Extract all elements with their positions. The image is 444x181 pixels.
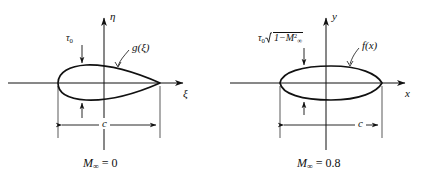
caption-mach-subscript: ∞ bbox=[307, 162, 313, 171]
curve-label-f: f(x) bbox=[362, 40, 377, 51]
radicand: 1−M2∞ bbox=[273, 32, 303, 44]
caption-mach-subscript: ∞ bbox=[93, 162, 99, 171]
chord-label: c bbox=[355, 118, 366, 129]
caption-mach-value: = 0.8 bbox=[316, 156, 341, 170]
curve-label-g: g(ξ) bbox=[132, 42, 150, 53]
panel-incompressible-drawing bbox=[0, 0, 222, 181]
xi-axis-label: ξ bbox=[183, 88, 188, 99]
panel-compressible-drawing bbox=[222, 0, 444, 181]
f-label-leader-line bbox=[350, 48, 359, 64]
y-axis-label: y bbox=[332, 11, 337, 22]
panel-compressible: y x τ01−M2∞ f(x) c M∞ = 0.8 bbox=[222, 0, 444, 181]
g-label-leader-tick bbox=[115, 62, 121, 67]
eta-axis-label: η bbox=[110, 11, 115, 22]
caption-mach-incompressible: M∞ = 0 bbox=[83, 157, 118, 171]
square-root-group: 1−M2∞ bbox=[265, 32, 303, 44]
radicand-mach-symbol: M bbox=[286, 32, 294, 43]
radicand-prefix: 1− bbox=[274, 32, 286, 43]
tau-zero-label: τ0 bbox=[65, 33, 74, 44]
chord-label: c bbox=[99, 118, 110, 129]
tau-subscript: 0 bbox=[70, 37, 73, 44]
tau-zero-compressibility-label: τ01−M2∞ bbox=[257, 32, 304, 44]
figure-root: η ξ τ0 g(ξ) c M∞ = 0 bbox=[0, 0, 444, 181]
x-axis-label: x bbox=[405, 88, 410, 99]
radicand-mach-subscript: ∞ bbox=[297, 37, 302, 44]
panel-incompressible: η ξ τ0 g(ξ) c M∞ = 0 bbox=[0, 0, 222, 181]
radical-tick-icon bbox=[265, 32, 272, 43]
caption-mach-symbol: M bbox=[83, 156, 93, 170]
caption-mach-symbol: M bbox=[297, 156, 307, 170]
caption-mach-compressible: M∞ = 0.8 bbox=[297, 157, 341, 171]
caption-mach-value: = 0 bbox=[102, 156, 118, 170]
